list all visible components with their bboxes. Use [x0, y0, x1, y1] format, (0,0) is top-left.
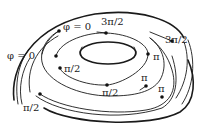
dot-pi-right-mid	[144, 84, 148, 88]
label-pi-2-bottom-left: π/2	[23, 103, 39, 113]
label-pi-right-lower: π	[158, 84, 165, 94]
outer-left-arc-3	[20, 58, 30, 104]
dot-pi2-mid-left	[58, 66, 62, 70]
inner-hole	[80, 42, 136, 64]
label-3pi-2-top: 3π/2	[101, 17, 124, 27]
dot-pi-right-lower	[160, 95, 164, 99]
label-pi-right-mid: π	[141, 73, 148, 83]
label-pi-2-bottom-mid: π/2	[102, 88, 118, 98]
label-phi-0-top: φ = 0	[63, 22, 91, 32]
dot-phi0-left	[54, 54, 58, 58]
dot-pi2-bottom-left	[38, 92, 42, 96]
label-3pi-2-right: 3π/2	[165, 35, 188, 45]
label-pi-2-mid-left: π/2	[64, 64, 80, 74]
dot-3pi2-top	[104, 31, 108, 35]
dot-phi0-top	[57, 29, 61, 33]
label-phi-0-left: φ = 0	[7, 51, 35, 61]
dot-pi-right-upper	[146, 52, 150, 56]
outer-right-arc-1	[176, 42, 187, 98]
label-pi-right-upper: π	[153, 52, 160, 62]
phase-ring-1	[56, 33, 148, 85]
